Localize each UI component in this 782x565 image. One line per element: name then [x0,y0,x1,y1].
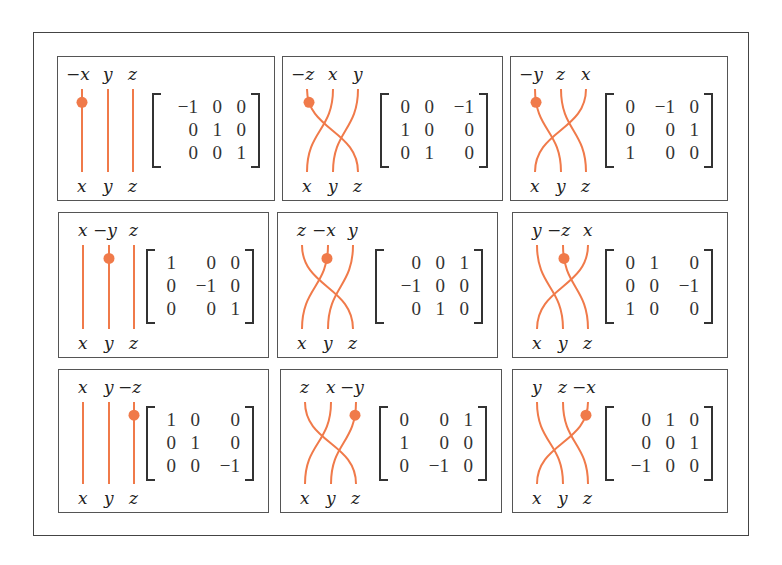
top-label: −x [312,221,336,239]
top-label: −x [66,65,90,83]
matrix-row: 100 [619,297,699,320]
top-label: y [104,378,114,396]
matrix-row: −100 [619,454,699,477]
left-bracket [605,93,614,168]
matrix-cell: 0 [160,298,176,320]
matrix-cell: 0 [643,119,675,141]
matrix-cell: −1 [442,96,474,118]
matrix-cell: 0 [184,409,200,431]
matrix-cell: 0 [184,298,216,320]
matrix-cell: 0 [160,275,176,297]
matrix-row: 0−10 [619,95,699,118]
matrix-row: 001 [619,118,699,141]
matrix-cell: 0 [208,432,240,454]
matrix-cell: 0 [457,432,473,454]
matrix-cell: 1 [457,409,473,431]
matrix-cell: 0 [667,298,699,320]
bottom-label: y [558,489,568,507]
matrix-row: 100 [160,251,240,274]
matrix-cell: 1 [659,409,675,431]
right-bracket [245,406,254,481]
permutation-panel: −zxyxyz00−1100010 [282,56,503,201]
matrix-row: 001 [619,431,699,454]
right-bracket [478,406,487,481]
matrix-cell: 0 [442,142,474,164]
left-bracket [375,249,384,324]
matrix-cell: 0 [393,455,409,477]
top-label: y [348,221,358,239]
bottom-label: z [129,489,138,507]
bottom-label: y [104,334,114,352]
matrix-cell: 0 [442,119,474,141]
bottom-label: z [351,489,360,507]
top-label: z [297,221,306,239]
matrix-row: 00−1 [394,95,474,118]
matrix-row: 0−10 [160,274,240,297]
matrix-row: 001 [160,297,240,320]
matrix-cell: 0 [184,252,216,274]
matrix-cell: 1 [230,142,246,164]
permutation-panel: z−xyxyz001−100010 [277,212,498,358]
left-bracket [146,249,155,324]
left-bracket [146,406,155,481]
matrix: 00−1100010 [394,95,474,164]
strand [305,402,331,484]
matrix-row: 010 [394,141,474,164]
top-label: −z [291,65,314,83]
matrix-cell: 0 [429,275,445,297]
matrix-cell: 0 [667,252,699,274]
matrix-cell: 1 [619,298,635,320]
top-label: x [78,378,88,396]
matrix-cell: 0 [643,142,675,164]
matrix-cell: 1 [393,432,409,454]
left-bracket [605,406,614,481]
matrix-cell: 0 [389,298,421,320]
matrix-row: 001 [393,408,473,431]
permutation-panel: x−yzxyz1000−10001 [58,212,269,358]
left-bracket [152,93,161,168]
top-label: z [556,65,565,83]
negation-marker-icon [304,97,315,108]
negation-marker-icon [350,410,361,421]
top-label: −z [118,378,141,396]
bottom-label: z [128,177,137,195]
bottom-label: x [77,177,87,195]
negation-marker-icon [580,410,591,421]
permutation-panel: y−zxxyz01000−1100 [512,212,728,358]
matrix-cell: 0 [393,409,409,431]
matrix-cell: 1 [453,252,469,274]
matrix-cell: 1 [394,119,410,141]
matrix-cell: −1 [389,275,421,297]
top-label: x [326,378,336,396]
bottom-label: y [556,177,566,195]
negation-marker-icon [321,253,332,264]
bottom-label: x [532,334,542,352]
permutation-panel: yz−xxyz010001−100 [512,369,728,513]
matrix-cell: 1 [619,142,635,164]
matrix-row: 001 [389,251,469,274]
top-label: x [583,221,593,239]
matrix: 10001000−1 [160,408,240,477]
matrix-cell: 0 [457,455,473,477]
matrix: 010001−100 [619,408,699,477]
matrix-cell: 0 [417,432,449,454]
right-bracket [251,93,260,168]
matrix-cell: 0 [418,119,434,141]
matrix-cell: 1 [429,298,445,320]
bottom-label: z [348,334,357,352]
top-label: z [300,378,309,396]
matrix-cell: 0 [160,432,176,454]
matrix-cell: 0 [683,409,699,431]
matrix-cell: 0 [160,455,176,477]
bottom-label: y [323,334,333,352]
matrix-cell: 0 [394,142,410,164]
matrix-cell: 0 [389,252,421,274]
matrix-cell: 0 [619,96,635,118]
matrix-cell: 1 [160,409,176,431]
matrix-cell: 1 [160,252,176,274]
matrix-row: 010 [160,431,240,454]
bottom-label: x [532,489,542,507]
matrix-cell: 0 [166,142,198,164]
matrix-cell: 0 [417,409,449,431]
matrix: 01000−1100 [619,251,699,320]
